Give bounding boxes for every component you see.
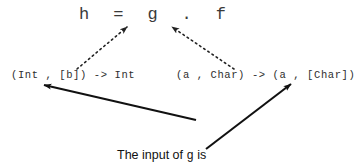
dotted-arrow-to-f <box>172 27 234 69</box>
dotted-arrow-to-g <box>77 27 127 69</box>
type-signature-g: (Int , [b]) -> Int <box>11 69 135 81</box>
type-signature-f: (a , Char) -> (a , [Char]) <box>176 69 355 81</box>
function-composition-diagram: h = g . f (Int , [b]) -> Int (a , Char) … <box>0 0 361 162</box>
solid-arrow-to-f-output <box>206 84 291 149</box>
caption-line-1-prefix: The input of <box>117 148 187 162</box>
caption-line-1-suffix: is <box>194 148 207 162</box>
composition-expression: h = g . f <box>79 5 227 24</box>
caption-text: The input of g is the output of f <box>117 120 206 162</box>
caption-line-1: The input of g is <box>117 148 206 162</box>
caption-line-1-code: g <box>187 149 194 162</box>
solid-arrow-to-g-input <box>44 85 196 120</box>
